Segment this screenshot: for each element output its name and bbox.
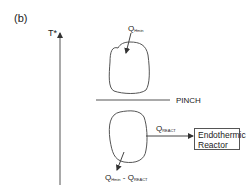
q-subscript: Hmin [134, 28, 143, 33]
panel-label: (b) [14, 12, 27, 24]
q-hmin-label: QHmin [128, 24, 144, 33]
q-subscript: REACT [134, 177, 148, 182]
below-pinch-region [109, 111, 147, 163]
pinch-label: PINCH [176, 96, 201, 105]
reactor-line2: Reactor [198, 140, 239, 150]
q-react-label: QREACT [156, 124, 176, 133]
axis-label: T* [48, 28, 57, 38]
diagram-canvas [0, 0, 249, 190]
q-out-arrow [117, 152, 124, 170]
q-subscript: REACT [162, 128, 176, 133]
endothermic-reactor-box: Endothermic Reactor [194, 128, 240, 150]
q-subscript: Hmin [111, 177, 120, 182]
q-hmin-arrow [126, 33, 131, 53]
minus-sign: - [121, 173, 128, 182]
above-pinch-region [109, 42, 149, 94]
reactor-line1: Endothermic [198, 130, 239, 140]
q-out-label: QHmin - QREACT [105, 173, 147, 182]
